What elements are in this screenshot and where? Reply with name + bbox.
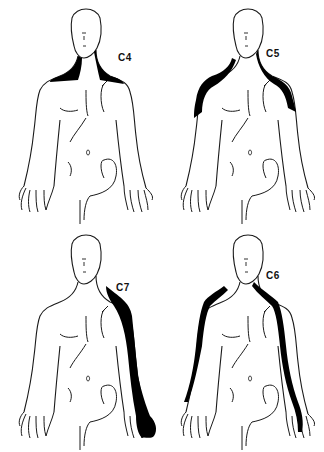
c4-region-left (50, 56, 82, 82)
label-c6: C6 (266, 270, 280, 281)
body-outline-c7 (0, 226, 162, 452)
dermatome-panel-c5: C5 (162, 0, 324, 226)
c6-region-left (184, 286, 228, 402)
label-c5: C5 (266, 48, 280, 59)
c7-region (106, 286, 156, 438)
body-outline-c5 (162, 0, 324, 226)
body-outline-c4 (0, 0, 162, 226)
dermatome-panel-c6: C6 (162, 226, 324, 452)
label-c4: C4 (118, 52, 132, 63)
dermatome-panel-c7: C7 (0, 226, 162, 452)
body-outline-c6 (162, 226, 324, 452)
label-c7: C7 (116, 282, 130, 293)
c6-region-right (252, 282, 303, 432)
c5-region-left (194, 58, 236, 118)
dermatome-panel-c4: C4 (0, 0, 162, 226)
c5-region-right (256, 50, 296, 112)
